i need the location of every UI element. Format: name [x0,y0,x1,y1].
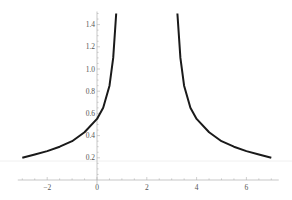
curve-left-branch [22,14,116,158]
y-tick-label: 1.2 [86,42,96,51]
x-tick-label: 4 [195,183,199,192]
curve-right-branch [177,14,271,158]
y-tick-label: 0.2 [86,153,96,162]
plot-curves [22,14,271,158]
x-tick-label: 0 [95,183,99,192]
y-tick-label: 1.0 [86,65,96,74]
y-tick-label: 0.8 [86,87,96,96]
x-tick-label: 2 [145,183,149,192]
y-tick-label: 0.4 [86,131,96,140]
axes [18,12,279,185]
tick-labels: −202460.20.40.60.81.01.21.4 [43,20,248,192]
y-tick-label: 1.4 [86,20,96,29]
chart: −202460.20.40.60.81.01.21.4 [0,0,292,200]
y-tick-label: 0.6 [86,109,96,118]
x-tick-label: 6 [245,183,249,192]
x-tick-label: −2 [43,183,51,192]
